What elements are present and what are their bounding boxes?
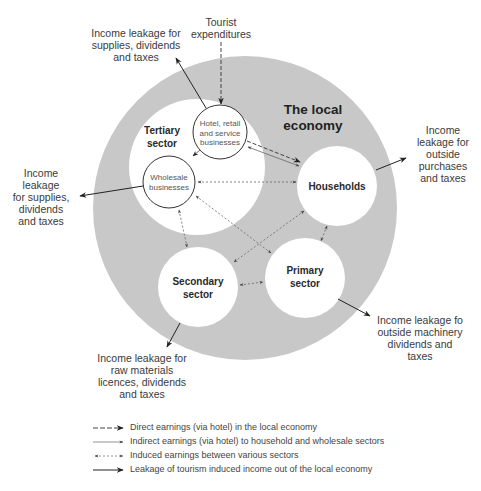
wholesale-label: Wholesale businesses (143, 173, 195, 192)
primary-sector-label: Primary sector (272, 264, 338, 290)
leakage-secondary-line: and taxes (87, 388, 197, 400)
hotel-line-1: Hotel, retail (193, 119, 247, 129)
leakage-primary-line: taxes (368, 350, 472, 362)
leakage-secondary-line: raw materials (87, 364, 197, 376)
leakage-primary-line: Income leakage fo (368, 314, 472, 326)
leakage-secondary-line: Income leakage for (87, 352, 197, 364)
tertiary-sector-label: Tertiary sector (132, 124, 192, 150)
leakage-households-line: outside (408, 148, 478, 160)
legend-item-induced: Induced earnings between various sectors (130, 450, 299, 461)
hotel-label: Hotel, retail and service businesses (193, 119, 247, 148)
tertiary-line-1: Tertiary (132, 124, 192, 137)
leakage-label-wholesale: Income leakage for supplies, dividends a… (6, 167, 76, 227)
local-economy-title: The local economy (268, 102, 358, 134)
households-label: Households (297, 180, 377, 193)
hotel-line-2: and service (193, 129, 247, 139)
leakage-label-primary: Income leakage fo outside machinery divi… (368, 314, 472, 362)
leakage-hotel-line: supplies, dividends (76, 39, 196, 51)
legend-item-leakage: Leakage of tourism induced income out of… (130, 464, 372, 475)
leakage-households-line: leakage for (408, 136, 478, 148)
leakage-wholesale-line: for supplies, (6, 191, 76, 203)
legend-item-indirect: Indirect earnings (via hotel) to househo… (130, 436, 384, 447)
wholesale-line-2: businesses (143, 183, 195, 193)
legend-item-direct: Direct earnings (via hotel) in the local… (130, 422, 317, 433)
primary-line-1: Primary (272, 264, 338, 277)
leakage-households-line: and taxes (408, 172, 478, 184)
hotel-line-3: businesses (193, 138, 247, 148)
leakage-hotel-line: and taxes (76, 51, 196, 63)
wholesale-line-1: Wholesale (143, 173, 195, 183)
leakage-households-line: purchases (408, 160, 478, 172)
secondary-line-1: Secondary (158, 275, 238, 288)
primary-line-2: sector (272, 277, 338, 290)
tertiary-line-2: sector (132, 137, 192, 150)
title-line-1: The local (268, 102, 358, 118)
leakage-wholesale-line: Income (6, 167, 76, 179)
leakage-wholesale-line: leakage (6, 179, 76, 191)
leakage-label-households: Income leakage for outside purchases and… (408, 124, 478, 184)
secondary-line-2: sector (158, 288, 238, 301)
leakage-secondary-line: licences, dividends (87, 376, 197, 388)
leakage-primary-line: dividends and (368, 338, 472, 350)
leakage-wholesale-line: dividends (6, 203, 76, 215)
leakage-households-line: Income (408, 124, 478, 136)
diagram-canvas (0, 0, 481, 491)
title-line-2: economy (268, 118, 358, 134)
leakage-primary-line: outside machinery (368, 326, 472, 338)
households-line: Households (297, 180, 377, 193)
secondary-sector-label: Secondary sector (158, 275, 238, 301)
leakage-label-secondary: Income leakage for raw materials licence… (87, 352, 197, 400)
leakage-label-hotel: Income leakage for supplies, dividends a… (76, 27, 196, 63)
leakage-wholesale-line: and taxes (6, 215, 76, 227)
leakage-hotel-line: Income leakage for (76, 27, 196, 39)
